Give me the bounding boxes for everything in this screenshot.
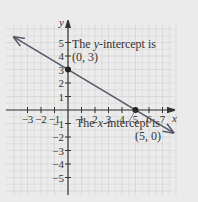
y-tick-label: 2: [59, 77, 65, 89]
y-tick-label: −2: [52, 131, 64, 143]
x-tick-label: −2: [35, 113, 47, 125]
x-intercept-annotation: The x-intercept is (5, 0): [76, 117, 161, 143]
annotation-text: The: [72, 37, 94, 51]
annotation-text: -intercept is: [103, 116, 160, 130]
y-tick-label: 5: [59, 37, 65, 49]
annotation-point: (0, 3): [72, 50, 98, 64]
x-axis-label: x: [171, 112, 177, 124]
y-tick-label: −1: [52, 118, 64, 130]
y-axis-label: y: [58, 16, 64, 28]
y-tick-label: −4: [52, 158, 64, 170]
y-tick-label: 1: [59, 91, 65, 103]
y-tick-label: −3: [52, 145, 64, 157]
y-tick-label: −5: [52, 172, 64, 184]
annotation-point: (5, 0): [76, 129, 161, 143]
annotation-text: -intercept is: [99, 37, 156, 51]
annotation-text: The: [76, 116, 98, 130]
coordinate-plane: xy−3−2−11234567−5−4−3−2−112345: [0, 0, 198, 202]
intercept-point: [65, 67, 71, 73]
x-tick-label: −3: [22, 113, 34, 125]
y-intercept-annotation: The y-intercept is (0, 3): [72, 38, 156, 64]
y-tick-label: 4: [59, 50, 65, 62]
